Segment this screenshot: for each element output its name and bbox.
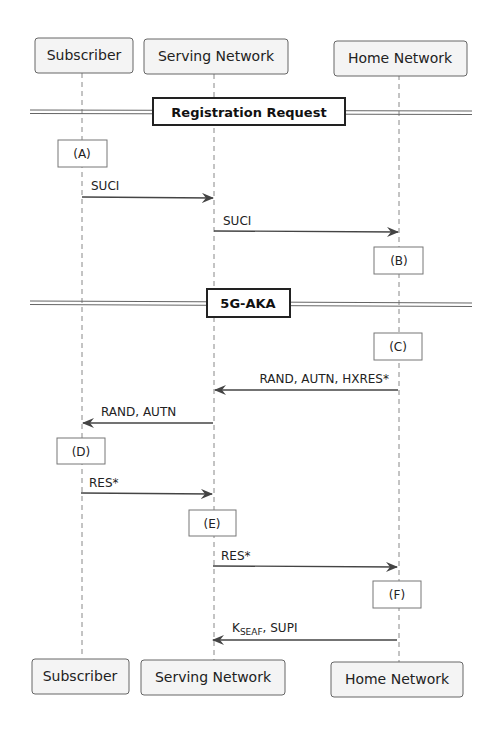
note-label: (C) xyxy=(389,340,407,354)
divider-label: 5G-AKA xyxy=(220,296,275,311)
participant-label: Subscriber xyxy=(43,668,118,684)
note-b: (B) xyxy=(374,247,423,274)
message-res-to-serving: RES* xyxy=(81,476,212,494)
divider-label: Registration Request xyxy=(171,105,326,120)
sequence-diagram: Subscriber Serving Network Home Network … xyxy=(0,0,498,736)
note-e: (E) xyxy=(189,510,236,536)
note-f: (F) xyxy=(373,581,421,608)
participant-home-network-bottom: Home Network xyxy=(331,662,463,697)
divider-5g-aka: 5G-AKA xyxy=(30,289,472,317)
note-label: (F) xyxy=(389,588,405,602)
participant-subscriber-top: Subscriber xyxy=(35,38,133,73)
message-label: KSEAF, SUPI xyxy=(232,621,297,637)
participant-serving-network-top: Serving Network xyxy=(144,39,288,74)
message-res-to-home: RES* xyxy=(213,549,397,567)
note-a: (A) xyxy=(58,140,107,167)
participant-label: Serving Network xyxy=(155,669,272,685)
message-suci-to-serving: SUCI xyxy=(82,179,213,198)
participant-home-network-top: Home Network xyxy=(334,41,467,76)
note-d: (D) xyxy=(57,438,105,464)
participant-label: Serving Network xyxy=(158,48,275,64)
participant-label: Subscriber xyxy=(47,47,122,63)
message-rand-autn: RAND, AUTN xyxy=(83,405,213,423)
message-suci-to-home: SUCI xyxy=(214,214,398,232)
note-label: (A) xyxy=(73,147,91,161)
note-c: (C) xyxy=(374,333,422,360)
message-label: SUCI xyxy=(223,214,251,228)
participant-serving-network-bottom: Serving Network xyxy=(141,660,285,695)
divider-registration-request: Registration Request xyxy=(30,98,472,125)
participant-label: Home Network xyxy=(348,50,453,66)
message-label: RES* xyxy=(221,549,251,563)
participant-label: Home Network xyxy=(345,671,450,687)
note-label: (E) xyxy=(204,517,221,531)
message-label: RAND, AUTN xyxy=(101,405,176,419)
message-label: RES* xyxy=(89,476,119,490)
message-label: SUCI xyxy=(91,179,119,193)
message-rand-autn-hxres: RAND, AUTN, HXRES* xyxy=(215,372,398,390)
message-kseaf-supi: KSEAF, SUPI xyxy=(213,621,397,640)
message-label: RAND, AUTN, HXRES* xyxy=(259,372,389,386)
note-label: (B) xyxy=(390,254,408,268)
participant-subscriber-bottom: Subscriber xyxy=(32,659,129,694)
note-label: (D) xyxy=(72,445,91,459)
